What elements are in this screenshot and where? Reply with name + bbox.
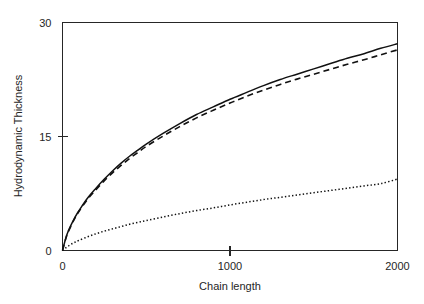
hydrodynamic-thickness-line-chart: 01530 010002000 Chain length Hydrodynami… [0,0,424,304]
x-tick-label-1000: 1000 [218,260,242,272]
x-tick-label-2000: 2000 [385,260,409,272]
y-axis-title: Hydrodynamic Thickness [12,74,24,197]
chart-background [0,0,424,304]
x-axis-title: Chain length [199,280,261,292]
chart-figure: 01530 010002000 Chain length Hydrodynami… [0,0,424,304]
y-tick-label-15: 15 [39,131,51,143]
y-tick-label-0: 0 [45,245,51,257]
x-tick-label-0: 0 [59,260,65,272]
y-tick-label-30: 30 [39,17,51,29]
